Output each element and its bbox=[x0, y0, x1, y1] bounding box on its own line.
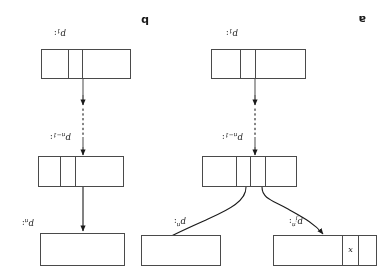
label-base: p bbox=[29, 219, 34, 229]
figure-rotator: x pjn: pn: pn−1: p1: bbox=[0, 0, 386, 275]
label-base: p bbox=[298, 217, 303, 227]
node-cell bbox=[212, 50, 240, 78]
edge-b-curve-to-pn bbox=[160, 187, 246, 242]
node-cell bbox=[68, 50, 82, 78]
label-colon: : bbox=[222, 133, 225, 143]
label-sub: n−1 bbox=[225, 132, 238, 139]
label-sub: 1 bbox=[57, 28, 61, 35]
label-colon: : bbox=[22, 219, 25, 229]
label-b-p1: p1: bbox=[226, 28, 238, 38]
node-cell bbox=[274, 236, 342, 265]
node-a-pn bbox=[40, 233, 125, 266]
node-cell bbox=[255, 50, 305, 78]
node-b-pn bbox=[141, 235, 221, 266]
node-cell bbox=[236, 157, 250, 186]
node-b-pjn: x bbox=[273, 235, 377, 266]
label-base: p bbox=[61, 29, 66, 39]
label-a-pn1: pn−1: bbox=[50, 132, 71, 142]
node-cell bbox=[203, 157, 236, 186]
node-b-p1 bbox=[211, 49, 306, 79]
node-cell bbox=[39, 157, 60, 186]
panel-tag-a: a bbox=[359, 13, 366, 26]
node-cell bbox=[75, 157, 123, 186]
label-colon: : bbox=[54, 29, 57, 39]
node-cell-x: x bbox=[342, 236, 358, 265]
label-base: p bbox=[238, 133, 243, 143]
label-sup: n bbox=[177, 222, 181, 229]
label-sub: 1 bbox=[229, 28, 233, 35]
label-b-pn1: pn−1: bbox=[222, 132, 243, 142]
node-a-pn1 bbox=[38, 156, 124, 187]
node-cell bbox=[358, 236, 376, 265]
label-sup: n bbox=[292, 222, 296, 229]
label-b-pjn: pjn: bbox=[289, 216, 303, 228]
label-base: p bbox=[233, 29, 238, 39]
node-cell bbox=[240, 50, 255, 78]
label-sub: n−1 bbox=[53, 132, 66, 139]
label-colon: : bbox=[226, 29, 229, 39]
node-cell bbox=[41, 234, 124, 265]
label-a-p1: p1: bbox=[54, 28, 66, 38]
node-cell bbox=[250, 157, 265, 186]
node-b-pn1 bbox=[202, 156, 297, 187]
label-b-pn: pn: bbox=[174, 216, 186, 228]
figure-canvas: x pjn: pn: pn−1: p1: bbox=[0, 0, 386, 275]
label-colon: : bbox=[50, 133, 53, 143]
node-cell bbox=[265, 157, 296, 186]
label-colon: : bbox=[289, 217, 292, 227]
node-cell bbox=[142, 236, 220, 265]
node-cell bbox=[60, 157, 75, 186]
node-a-p1 bbox=[41, 49, 131, 79]
node-cell bbox=[42, 50, 68, 78]
node-cell bbox=[82, 50, 130, 78]
label-base: p bbox=[181, 217, 186, 227]
label-sub: n bbox=[25, 218, 29, 225]
label-a-pn: pn: bbox=[22, 218, 34, 228]
label-base: p bbox=[66, 133, 71, 143]
panel-tag-b: b bbox=[141, 14, 149, 27]
label-colon: : bbox=[174, 217, 177, 227]
